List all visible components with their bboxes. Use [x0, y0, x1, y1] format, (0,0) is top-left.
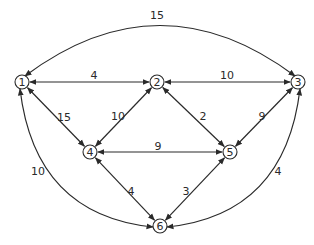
- node-1: 1: [15, 75, 29, 89]
- edge-weight-2-4: 10: [111, 110, 125, 123]
- edge-weight-2-5: 2: [200, 110, 207, 123]
- edge-weight-3-5: 9: [259, 110, 266, 123]
- node-6: 6: [153, 219, 167, 233]
- node-label: 4: [87, 146, 94, 159]
- node-label: 3: [295, 76, 302, 89]
- edge-1-4: [28, 88, 85, 147]
- edge-weight-2-3: 10: [220, 69, 234, 82]
- graph-svg: 15410151029943104 123456: [0, 0, 314, 245]
- nodes-layer: 123456: [15, 75, 305, 233]
- node-label: 5: [227, 146, 234, 159]
- node-2: 2: [150, 75, 164, 89]
- edge-weight-1-6: 10: [31, 165, 45, 178]
- edge-weight-5-6: 3: [183, 185, 190, 198]
- edge-4-6: [95, 158, 154, 220]
- node-label: 1: [19, 76, 26, 89]
- edge-2-5: [163, 88, 224, 147]
- node-4: 4: [83, 145, 97, 159]
- weights-layer: 15410151029943104: [31, 9, 282, 198]
- node-label: 2: [154, 76, 161, 89]
- edge-1-3: [25, 26, 295, 77]
- edge-weight-3-6: 4: [275, 165, 282, 178]
- edges-layer: [20, 26, 300, 228]
- node-3: 3: [291, 75, 305, 89]
- edge-weight-4-5: 9: [155, 140, 162, 153]
- edge-5-6: [165, 158, 224, 220]
- edge-weight-1-2: 4: [91, 69, 98, 82]
- edge-weight-1-3: 15: [150, 9, 164, 22]
- node-label: 6: [157, 220, 164, 233]
- edge-weight-1-4: 15: [57, 111, 71, 124]
- graph-diagram: 15410151029943104 123456: [0, 0, 314, 245]
- node-5: 5: [223, 145, 237, 159]
- edge-weight-4-6: 4: [128, 185, 135, 198]
